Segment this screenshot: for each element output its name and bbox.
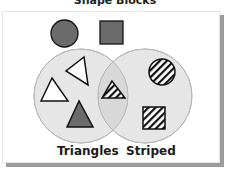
striped-square-shape — [143, 107, 165, 129]
gray-square-shape — [100, 21, 123, 44]
striped-circle-shape — [149, 59, 175, 85]
label-triangles: Triangles — [57, 144, 119, 158]
gray-circle-shape — [51, 20, 78, 47]
label-striped: Striped — [126, 144, 176, 158]
